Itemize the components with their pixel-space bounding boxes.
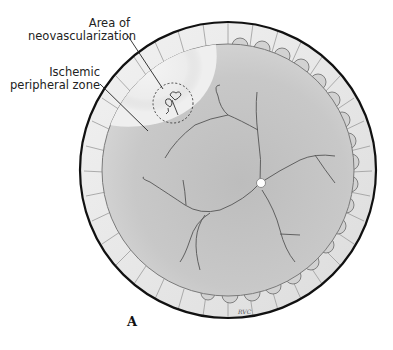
label-line: neovascularization	[28, 30, 130, 43]
panel-letter: A	[127, 314, 137, 329]
label-ischemic-zone: Ischemic peripheral zone	[10, 66, 100, 92]
label-neovascularization: Area of neovascularization	[28, 17, 130, 43]
optic-disc	[257, 179, 266, 188]
fundus-illustration: RVC	[0, 0, 393, 350]
artist-signature: RVC	[237, 308, 252, 315]
retina-diagram: RVC Area of neovascularization Ischemic …	[0, 0, 393, 350]
label-line: peripheral zone	[10, 79, 100, 92]
